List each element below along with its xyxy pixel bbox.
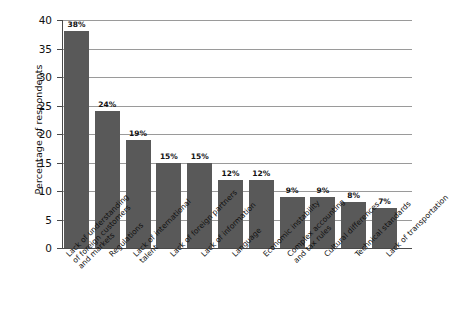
bar-value-label: 24% bbox=[89, 101, 126, 109]
bar-value-label: 19% bbox=[120, 130, 157, 138]
gridline bbox=[62, 49, 412, 50]
y-axis-tick-label: 25 bbox=[26, 101, 52, 112]
y-axis-tick-label: 40 bbox=[26, 15, 52, 26]
gridline bbox=[62, 77, 412, 78]
bar-value-label: 38% bbox=[58, 21, 95, 29]
bar-value-label: 15% bbox=[181, 153, 218, 161]
bar bbox=[64, 31, 89, 248]
y-axis-tick-label: 35 bbox=[26, 44, 52, 55]
y-axis-tick-label: 10 bbox=[26, 186, 52, 197]
gridline bbox=[62, 20, 412, 21]
y-axis-tick-label: 30 bbox=[26, 72, 52, 83]
y-axis-tick-label: 5 bbox=[26, 215, 52, 226]
y-axis-line bbox=[62, 20, 63, 249]
y-axis-tick-label: 15 bbox=[26, 158, 52, 169]
y-axis-tick-label: 0 bbox=[26, 243, 52, 254]
bar-value-label: 12% bbox=[243, 170, 280, 178]
y-axis-tick-label: 20 bbox=[26, 129, 52, 140]
